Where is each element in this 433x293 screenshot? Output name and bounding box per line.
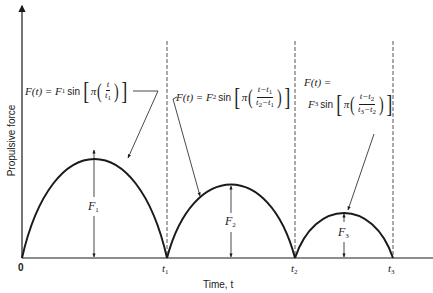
equation-1: F(t) = F1 sin [ π ( t t1 ) ] bbox=[25, 78, 128, 104]
amp-sub: 3 bbox=[345, 232, 349, 240]
paren-open: ( bbox=[97, 81, 102, 101]
num-text: t−t bbox=[360, 91, 371, 101]
den-sub: 1 bbox=[107, 94, 111, 102]
equation-3-rhs: F3 sin [ π ( t−t2 t3−t2 ) ] bbox=[308, 91, 393, 117]
eq-lhs: F(t) = bbox=[25, 85, 52, 97]
amp-sub: 2 bbox=[232, 221, 236, 229]
num-sub: 1 bbox=[269, 88, 273, 96]
bracket-close: ] bbox=[121, 78, 127, 104]
paren-open: ( bbox=[248, 87, 253, 107]
leader-line-1 bbox=[128, 91, 158, 158]
eq-pi: π bbox=[344, 98, 350, 110]
bracket-open: [ bbox=[83, 78, 89, 104]
eq-fraction: t−t1 t2−t1 bbox=[255, 85, 275, 109]
num-text: t bbox=[107, 79, 110, 89]
paren-close: ) bbox=[114, 81, 119, 101]
eq-coef-sub: 2 bbox=[213, 93, 217, 101]
equation-2: F(t) = F2 sin [ π ( t−t1 t2−t1 ) ] bbox=[176, 84, 291, 110]
eq-fraction: t t1 bbox=[104, 80, 112, 102]
tick-t3: t3 bbox=[388, 263, 395, 276]
bracket-close: ] bbox=[284, 84, 290, 110]
tick-sub: 2 bbox=[294, 268, 298, 276]
eq-pi: π bbox=[91, 85, 97, 97]
amplitude-label-f2: F2 bbox=[225, 215, 236, 229]
equation-3-lhs: F(t) = bbox=[304, 76, 331, 88]
bracket-open: [ bbox=[336, 91, 342, 117]
diagram-canvas bbox=[0, 0, 433, 293]
origin-label: 0 bbox=[18, 263, 24, 273]
leader-line-2 bbox=[173, 97, 200, 196]
amplitude-label-f3: F3 bbox=[338, 226, 349, 240]
den-tail-sub: 2 bbox=[372, 108, 376, 116]
tick-t2: t2 bbox=[291, 263, 298, 276]
force-time-diagram: Propulsive force 0 t1 t2 t3 Time, t F1 F… bbox=[0, 0, 433, 293]
bracket-close: ] bbox=[386, 91, 392, 117]
eq-func: sin bbox=[67, 86, 80, 97]
eq-coef: F bbox=[308, 98, 315, 110]
tick-t1: t1 bbox=[162, 263, 169, 276]
x-axis-label: Time, t bbox=[203, 280, 233, 290]
amplitude-label-f1: F1 bbox=[88, 200, 99, 214]
tick-sub: 1 bbox=[165, 268, 169, 276]
bracket-open: [ bbox=[234, 84, 240, 110]
paren-open: ( bbox=[350, 94, 355, 114]
tick-sub: 3 bbox=[391, 268, 395, 276]
eq-coef-sub: 3 bbox=[315, 100, 319, 108]
eq-pi: π bbox=[242, 91, 248, 103]
eq-denominator: t1 bbox=[104, 91, 112, 102]
paren-close: ) bbox=[379, 94, 384, 114]
eq-denominator: t2−t1 bbox=[255, 98, 275, 109]
eq-coef: F bbox=[55, 85, 62, 97]
eq-fraction: t−t2 t3−t2 bbox=[357, 92, 377, 116]
amp-sub: 1 bbox=[95, 206, 99, 214]
den-tail: −t bbox=[262, 97, 271, 107]
y-axis-label: Propulsive force bbox=[6, 105, 17, 177]
paren-close: ) bbox=[277, 87, 282, 107]
leader-line-3 bbox=[348, 134, 374, 210]
num-text: t−t bbox=[258, 84, 269, 94]
eq-lhs: F(t) = bbox=[176, 91, 203, 103]
eq-coef: F bbox=[206, 91, 213, 103]
eq-func: sin bbox=[320, 99, 333, 110]
eq-func: sin bbox=[218, 92, 231, 103]
eq-lhs: F(t) = bbox=[304, 76, 331, 88]
eq-denominator: t3−t2 bbox=[357, 105, 377, 116]
eq-coef-sub: 1 bbox=[62, 87, 66, 95]
num-sub: 2 bbox=[371, 95, 375, 103]
den-tail-sub: 1 bbox=[271, 101, 275, 109]
